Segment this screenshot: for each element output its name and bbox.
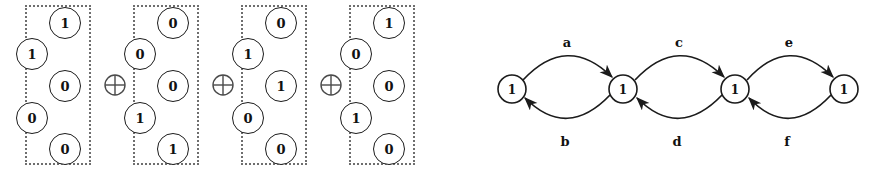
edge-d-label: d	[672, 134, 681, 149]
vector-group-2: 0 0 0 1 1	[122, 0, 217, 175]
bit-cell-4-3: 0	[373, 70, 405, 102]
bit-cell-3-3: 1	[265, 70, 297, 102]
bit-cell-3-4: 0	[232, 102, 264, 134]
bit-cell-2-1: 0	[157, 7, 189, 39]
graph-node-1: 1	[498, 75, 526, 103]
bit-cell-2-4: 1	[124, 102, 156, 134]
graph-node-4-label: 1	[840, 83, 848, 97]
vector-group-4: 1 0 0 1 0	[338, 0, 433, 175]
edge-f-arrow	[749, 95, 831, 118]
edge-c: c	[635, 35, 724, 80]
edge-b-arrow	[525, 95, 610, 118]
edge-d: d	[637, 95, 722, 149]
edge-d-arrow	[637, 95, 722, 118]
edge-e-label: e	[785, 35, 793, 50]
bit-cell-1-4: 0	[16, 102, 48, 134]
graph-node-2-label: 1	[619, 83, 627, 97]
bit-cell-4-1: 1	[373, 7, 405, 39]
vector-group-3: 0 1 1 0 0	[230, 0, 325, 175]
bit-cell-4-2: 0	[340, 38, 372, 70]
bit-cell-2-2: 0	[124, 38, 156, 70]
bit-cell-1-5: 0	[49, 133, 81, 165]
figure-canvas: 1 1 0 0 0 0 0 0 1 1	[0, 0, 888, 175]
chain-graph: a b c d e	[450, 0, 888, 175]
vector-group-1: 1 1 0 0 0	[14, 0, 109, 175]
xor-expression: 1 1 0 0 0 0 0 0 1 1	[0, 0, 450, 175]
bit-cell-4-5: 0	[373, 133, 405, 165]
bit-cell-1-2: 1	[16, 38, 48, 70]
edge-a-label: a	[563, 35, 572, 50]
graph-node-3: 1	[721, 75, 749, 103]
edge-e: e	[747, 35, 833, 80]
bit-cell-1-3: 0	[49, 70, 81, 102]
graph-node-4: 1	[830, 75, 858, 103]
edge-f: f	[749, 95, 831, 149]
bit-cell-2-3: 0	[157, 70, 189, 102]
bit-cell-4-4: 1	[340, 102, 372, 134]
graph-node-1-label: 1	[508, 83, 516, 97]
edge-a-arrow	[523, 56, 612, 80]
graph-node-3-label: 1	[731, 83, 739, 97]
edge-b-label: b	[560, 134, 569, 149]
bit-cell-3-2: 1	[232, 38, 264, 70]
edge-b: b	[525, 95, 610, 149]
bit-cell-2-5: 1	[157, 133, 189, 165]
edge-e-arrow	[747, 56, 833, 80]
bit-cell-3-5: 0	[265, 133, 297, 165]
edge-f-label: f	[784, 134, 791, 149]
edge-c-arrow	[635, 56, 724, 80]
bit-cell-1-1: 1	[49, 7, 81, 39]
bit-cell-3-1: 0	[265, 7, 297, 39]
edge-a: a	[523, 35, 612, 80]
edge-c-label: c	[675, 35, 683, 50]
graph-node-2: 1	[609, 75, 637, 103]
